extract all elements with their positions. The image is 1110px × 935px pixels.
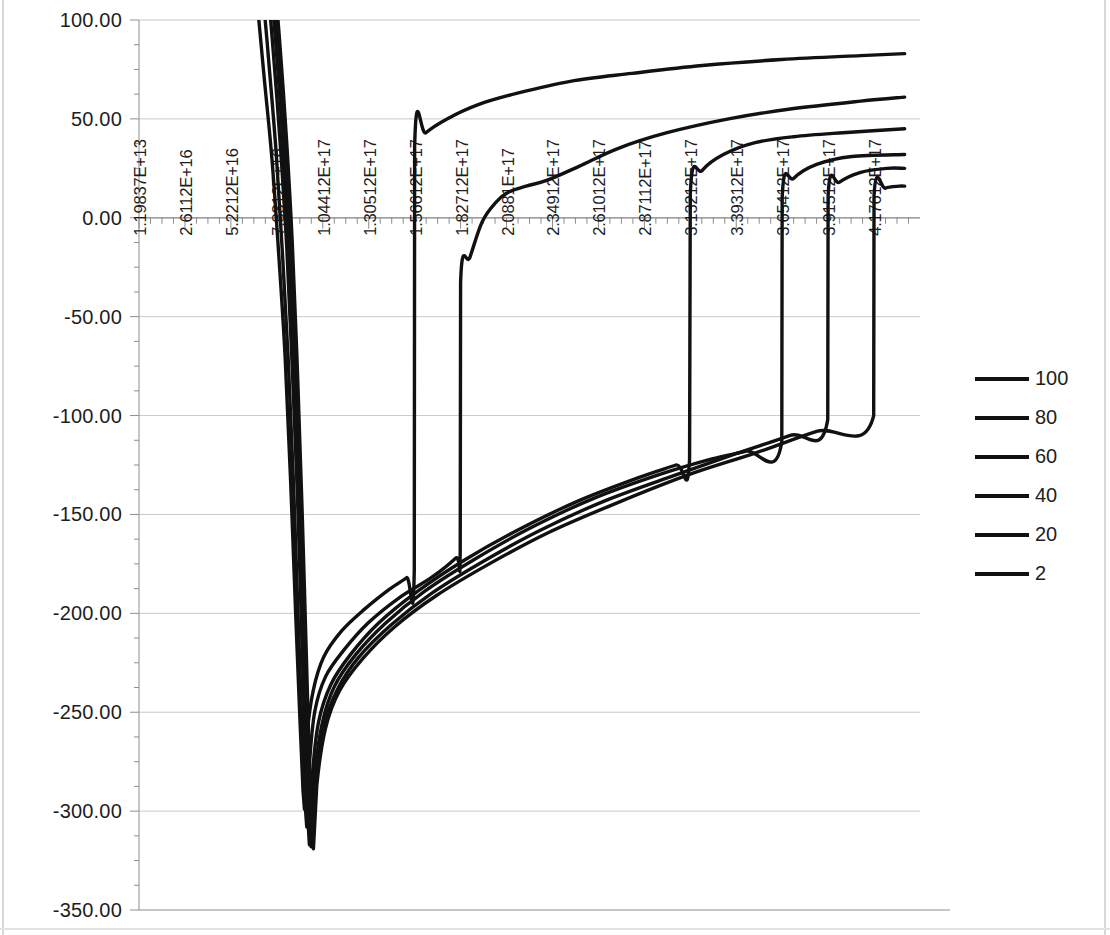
x-axis-tick-label: 3.39312E+17 [728, 139, 746, 235]
y-axis-tick-label: -250.00 [53, 701, 122, 723]
line-chart: 100.0050.000.00-50.00-100.00-150.00-200.… [0, 0, 1110, 935]
legend-label: 20 [1035, 523, 1057, 545]
legend-label: 40 [1035, 484, 1057, 506]
y-axis-tick-label: -300.00 [53, 800, 122, 822]
x-axis-tick-label: 1.82712E+17 [453, 139, 471, 235]
series-line [260, 0, 904, 847]
x-axis-ticks [139, 218, 908, 229]
legend-label: 100 [1035, 367, 1068, 389]
chart-page: 100.0050.000.00-50.00-100.00-150.00-200.… [0, 0, 1110, 935]
y-axis-tick-labels: 100.0050.000.00-50.00-100.00-150.00-200.… [53, 9, 122, 921]
y-axis-tick-label: 0.00 [82, 207, 122, 229]
chart-legend: 100806040202 [975, 367, 1068, 584]
y-axis-tick-label: 50.00 [71, 108, 122, 130]
series-line [263, 0, 905, 849]
y-axis-tick-label: -200.00 [53, 602, 122, 624]
legend-label: 60 [1035, 445, 1057, 467]
x-axis-tick-label: 5.2212E+16 [223, 148, 241, 235]
series-line [254, 0, 904, 845]
y-axis-tick-label: -350.00 [53, 899, 122, 921]
y-axis-tick-label: 100.00 [60, 9, 122, 31]
legend-label: 80 [1035, 406, 1057, 428]
x-axis-tick-label: 2.34912E+17 [544, 139, 562, 235]
x-axis-tick-label: 1.30512E+17 [361, 139, 379, 235]
x-axis-tick-label: 2.87112E+17 [636, 141, 654, 236]
legend-label: 2 [1035, 562, 1046, 584]
x-axis-tick-label: 1.19837E+13 [131, 139, 149, 235]
series-line [258, 0, 905, 847]
x-axis-tick-label: 2.6112E+16 [177, 150, 195, 236]
series-lines [241, 0, 905, 849]
y-axis-tick-label: -50.00 [64, 306, 122, 328]
series-line [248, 0, 905, 827]
y-axis-tick-label: -150.00 [53, 503, 122, 525]
y-axis-tick-label: -100.00 [53, 405, 122, 427]
x-axis-tick-label: 1.04412E+17 [315, 139, 333, 235]
